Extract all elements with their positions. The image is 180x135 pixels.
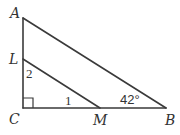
point-label-A: A [8,5,20,21]
angle-label-1: 1 [65,93,72,108]
point-label-M: M [92,112,108,128]
point-label-L: L [8,51,18,67]
angle-label-B: 42° [120,92,140,107]
segment-AB [23,18,166,108]
segment-LM [23,59,100,108]
angle-label-2: 2 [26,66,33,81]
right-angle-marker [23,98,33,108]
geometry-diagram: A L C M B 2 1 42° [0,0,180,135]
point-label-C: C [9,111,20,127]
point-label-B: B [164,112,175,128]
